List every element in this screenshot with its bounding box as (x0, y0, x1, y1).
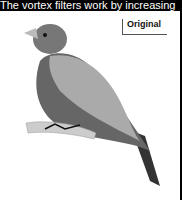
original-label: Original (122, 19, 167, 35)
image-panel: Original (0, 11, 180, 200)
caption-text: The vortex filters work by increasing (0, 0, 182, 11)
bird-illustration (0, 11, 180, 200)
